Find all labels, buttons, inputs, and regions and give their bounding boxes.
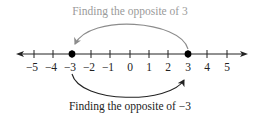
number-line-axis [16,51,248,57]
point-positive-3 [185,51,192,58]
tick-label: 1 [146,61,152,73]
tick-label: −2 [83,61,95,73]
top-caption: Finding the opposite of 3 [72,5,188,18]
bottom-caption: Finding the opposite of −3 [69,100,191,113]
tick-label: 3 [185,61,191,73]
tick-label: −5 [26,61,38,73]
bottom-arrow-arc [72,74,184,97]
tick-label: 0 [127,61,133,73]
tick-label: −4 [45,61,57,73]
tick-label: 5 [224,61,230,73]
tick-label: −1 [102,61,114,73]
top-arrow-arc [75,24,188,49]
point-negative-3 [69,51,76,58]
tick-labels: −5 −4 −3 −2 −1 0 1 2 3 4 5 [26,61,230,73]
number-line-diagram: Finding the opposite of 3 −5 −4 −3 −2 −1… [0,0,259,114]
tick-label: 4 [204,61,210,73]
tick-label: 2 [165,61,171,73]
tick-label: −3 [64,61,76,73]
